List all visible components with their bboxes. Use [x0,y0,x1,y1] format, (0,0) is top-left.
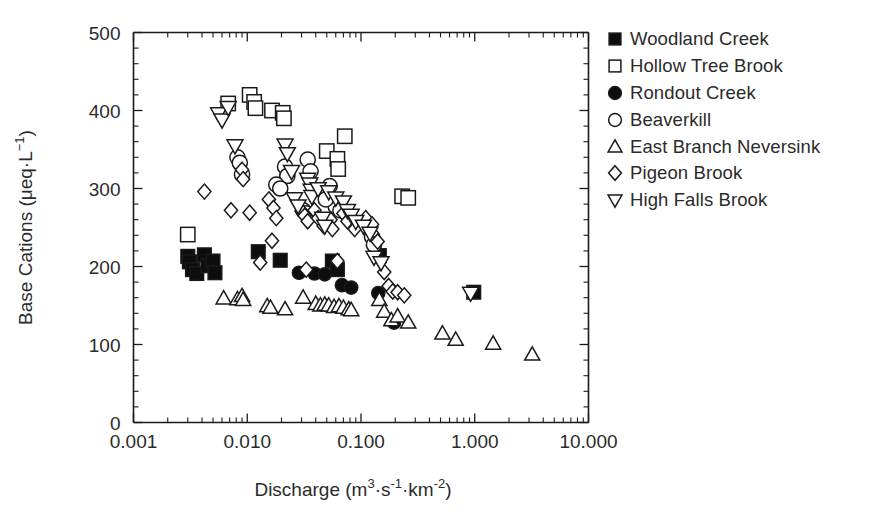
x-tick-label: 10.000 [559,431,617,452]
data-point [318,268,331,281]
legend-item-label: High Falls Brook [630,189,767,211]
chart-legend: Woodland CreekHollow Tree BrookRondout C… [606,26,878,214]
legend-item-east-branch-neversink[interactable]: East Branch Neversink [606,133,878,160]
y-tick-label: 100 [89,335,121,356]
data-point [486,336,501,349]
legend-item-woodland-creek[interactable]: Woodland Creek [606,26,878,53]
y-tick-label: 400 [89,101,121,122]
data-point [435,326,450,339]
legend-item-label: Hollow Tree Brook [630,55,783,77]
legend-item-label: Pigeon Brook [630,162,742,184]
circle-open-icon [606,110,630,130]
data-point [214,114,230,128]
data-point [278,302,293,315]
legend-marker-glyph [609,113,622,126]
x-tick-label: 0.001 [110,431,158,452]
data-point [401,191,415,205]
series-east-branch-neversink [216,288,540,360]
legend-marker-glyph [608,195,622,207]
data-point [338,129,352,143]
data-point [248,101,262,115]
triangle-up-open-icon [606,137,630,157]
diamond-open-icon [606,163,630,183]
data-point [525,347,540,360]
scatter-chart-figure: 0.0010.0100.1001.00010.00001002003004005… [0,0,884,524]
data-point [224,203,237,218]
x-axis-title: Discharge (m3·s-1·km-2) [254,476,451,500]
legend-marker-glyph [609,166,622,181]
legend-item-beaverkill[interactable]: Beaverkill [606,106,878,133]
data-point [273,253,287,267]
legend-item-label: Woodland Creek [630,28,769,50]
x-tick-label: 1.000 [451,431,499,452]
legend-marker-glyph [609,60,621,72]
circle-filled-icon [606,83,630,103]
legend-marker-glyph [609,87,622,100]
y-tick-label: 500 [89,23,121,44]
legend-marker-glyph [608,139,622,151]
data-point [296,290,311,303]
y-tick-label: 300 [89,179,121,200]
data-point [198,184,211,199]
y-axis-title: Base Cations (μeq·L−1) [12,130,36,325]
legend-item-label: Beaverkill [630,109,711,131]
square-filled-icon [606,29,630,49]
data-point [273,181,288,196]
y-tick-label: 200 [89,257,121,278]
data-points [181,88,540,360]
triangle-down-open-icon [606,190,630,210]
x-tick-label: 0.100 [337,431,385,452]
legend-marker-glyph [609,34,621,46]
x-tick-label: 0.010 [223,431,271,452]
legend-item-label: East Branch Neversink [630,136,820,158]
legend-item-pigeon-brook[interactable]: Pigeon Brook [606,160,878,187]
legend-item-rondout-creek[interactable]: Rondout Creek [606,80,878,107]
square-open-icon [606,56,630,76]
data-point [345,281,358,294]
data-point [265,233,278,248]
data-point [243,205,256,220]
axis-tick-labels: 0.0010.0100.1001.00010.00001002003004005… [89,23,618,452]
data-point [331,162,345,176]
legend-item-hollow-tree-brook[interactable]: Hollow Tree Brook [606,53,878,80]
data-point [216,291,231,304]
legend-item-label: Rondout Creek [630,82,756,104]
legend-item-high-falls-brook[interactable]: High Falls Brook [606,187,878,214]
data-point [277,111,291,125]
y-tick-label: 0 [110,413,121,434]
data-point [181,227,195,241]
data-point [208,266,222,280]
